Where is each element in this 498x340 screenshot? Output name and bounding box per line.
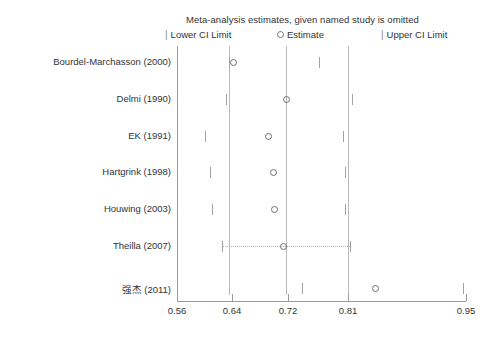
study-row: Hartgrink (1998): [0, 172, 498, 173]
upper-ci-marker: [343, 131, 344, 142]
study-label: Bourdel-Marchasson (2000): [53, 56, 171, 67]
upper-ci-marker: [345, 204, 346, 215]
x-axis-tick: [288, 294, 289, 301]
estimate-marker: [280, 243, 287, 250]
upper-ci-marker: [463, 283, 464, 294]
study-row: EK (1991): [0, 136, 498, 137]
upper-ci-marker: [319, 57, 320, 68]
lower-ci-marker: [222, 241, 223, 252]
legend-item-estimate: Estimate: [277, 29, 324, 40]
x-axis-tick: [177, 294, 178, 301]
study-label: Delmi (1990): [117, 93, 171, 104]
estimate-marker: [283, 96, 290, 103]
upper-ci-marker: [352, 94, 353, 105]
study-row: Bourdel-Marchasson (2000): [0, 62, 498, 63]
legend-circle-icon: [277, 31, 284, 38]
legend-label-upper-ci: Upper CI Limit: [387, 29, 448, 40]
study-row: 强杰 (2011): [0, 288, 498, 289]
reference-line-0-72: [286, 46, 287, 295]
reference-line-0-81: [348, 46, 349, 295]
legend-tick-icon: |: [165, 29, 168, 40]
x-axis-tick: [348, 294, 349, 301]
legend-item-lower-ci: |Lower CI Limit: [165, 29, 231, 40]
x-axis-tick: [466, 294, 467, 301]
chart-legend: |Lower CI Limit Estimate |Upper CI Limit: [165, 29, 485, 42]
legend-label-estimate: Estimate: [287, 29, 324, 40]
study-label: Hartgrink (1998): [102, 166, 171, 177]
study-row: Houwing (2003): [0, 209, 498, 210]
lower-ci-marker: [210, 167, 211, 178]
study-label: 强杰 (2011): [122, 282, 171, 296]
legend-item-upper-ci: |Upper CI Limit: [381, 29, 447, 40]
x-axis-tick: [232, 294, 233, 301]
study-row: Theilla (2007): [0, 246, 498, 247]
x-axis-tick-label: 0.72: [279, 305, 298, 316]
upper-ci-marker: [350, 241, 351, 252]
estimate-marker: [372, 285, 379, 292]
study-label: Theilla (2007): [113, 240, 171, 251]
upper-ci-marker: [345, 167, 346, 178]
study-label: EK (1991): [128, 130, 171, 141]
chart-title: Meta-analysis estimates, given named stu…: [186, 14, 419, 25]
estimate-marker: [271, 206, 278, 213]
legend-label-lower-ci: Lower CI Limit: [171, 29, 232, 40]
x-axis-tick-label: 0.64: [223, 305, 242, 316]
lower-ci-marker: [226, 94, 227, 105]
reference-line-0-64: [229, 46, 230, 295]
study-label: Houwing (2003): [104, 203, 171, 214]
lower-ci-marker: [212, 204, 213, 215]
lower-ci-marker: [205, 131, 206, 142]
x-axis-tick-label: 0.81: [339, 305, 358, 316]
estimate-marker: [265, 133, 272, 140]
estimate-marker: [230, 59, 237, 66]
x-axis-tick-label: 0.56: [168, 305, 187, 316]
forest-plot-canvas: Meta-analysis estimates, given named stu…: [0, 0, 498, 340]
estimate-marker: [270, 169, 277, 176]
legend-tick-icon: |: [381, 29, 384, 40]
y-axis-line: [177, 46, 178, 301]
lower-ci-marker: [302, 283, 303, 294]
x-axis-tick-label: 0.95: [457, 305, 476, 316]
study-row: Delmi (1990): [0, 99, 498, 100]
x-axis-line: [177, 301, 466, 302]
